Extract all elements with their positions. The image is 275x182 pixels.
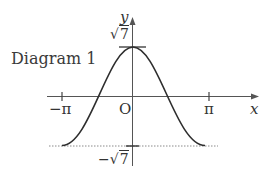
radical-icon: √	[110, 151, 119, 167]
origin-label: O	[119, 102, 131, 117]
radical-icon: √	[110, 26, 119, 42]
diagram-title: Diagram 1	[11, 51, 96, 67]
y-axis-arrow-icon	[130, 17, 136, 25]
diagram-graphics	[0, 0, 275, 182]
sqrt-prefix: −	[98, 151, 110, 167]
y-tick-label-neg-sqrt7: −√7	[98, 152, 129, 166]
y-axis-label: y	[120, 10, 128, 25]
diagram-canvas: Diagram 1 y x O −π π √7 −√7	[0, 0, 275, 182]
x-axis-arrow-icon	[251, 94, 259, 100]
y-tick-label-sqrt7: √7	[110, 27, 129, 41]
x-tick-label-pi: π	[204, 102, 214, 117]
x-tick-label-neg-pi: −π	[49, 102, 71, 117]
radicand: 7	[119, 25, 129, 42]
x-axis-label: x	[250, 102, 258, 117]
radicand: 7	[119, 150, 129, 167]
